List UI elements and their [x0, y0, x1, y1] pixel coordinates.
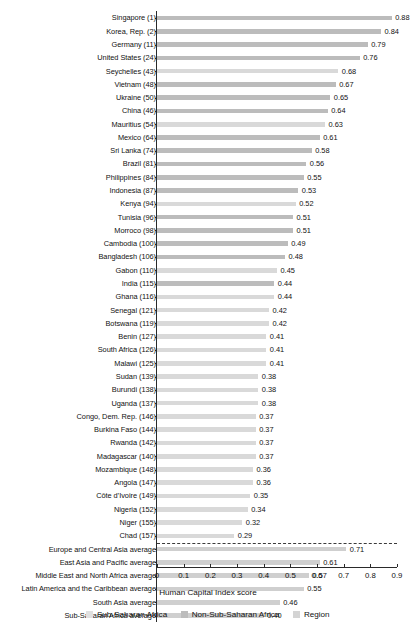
y-axis-tick-label: Indonesia (87) — [4, 184, 156, 197]
y-axis-tick-label: South Africa (126) — [4, 343, 156, 356]
x-axis-tick-label: 0.9 — [385, 571, 409, 580]
y-axis-tick-label: United States (24) — [4, 51, 156, 64]
bar-value-label: 0.46 — [283, 596, 297, 609]
bar-value-label: 0.44 — [278, 290, 292, 303]
bar — [157, 56, 360, 61]
y-axis-tick-label: Madagascar (140) — [4, 450, 156, 463]
x-axis-tick-label: 0.2 — [198, 571, 222, 580]
chart-row: Bangladesh (106)0.48 — [0, 250, 416, 263]
bar — [157, 454, 256, 459]
chart-row: Brazil (81)0.56 — [0, 157, 416, 170]
bar-value-label: 0.42 — [273, 304, 287, 317]
human-capital-index-chart: Singapore (1)0.88Korea, Rep. (2)0.84Germ… — [0, 0, 416, 634]
y-axis-tick-label: Ukraine (50) — [4, 91, 156, 104]
bar-value-label: 0.37 — [259, 423, 273, 436]
bar — [157, 427, 256, 432]
bar-value-label: 0.88 — [395, 11, 409, 24]
chart-row: United States (24)0.76 — [0, 51, 416, 64]
bar — [157, 29, 381, 34]
chart-row: Malawi (125)0.41 — [0, 357, 416, 370]
y-axis-tick-label: Burkina Faso (144) — [4, 423, 156, 436]
bar-value-label: 0.65 — [334, 91, 348, 104]
bar-value-label: 0.51 — [297, 211, 311, 224]
y-axis-tick-label: Botswana (119) — [4, 317, 156, 330]
bar-value-label: 0.63 — [329, 118, 343, 131]
x-axis-tick-mark — [264, 564, 265, 567]
x-axis-tick-mark — [237, 564, 238, 567]
bar-value-label: 0.58 — [315, 144, 329, 157]
y-axis-tick-label: Ghana (116) — [4, 290, 156, 303]
legend-color-swatch — [181, 611, 188, 618]
chart-row: Indonesia (87)0.53 — [0, 184, 416, 197]
bar — [157, 348, 266, 353]
bar — [157, 228, 293, 233]
bar-value-label: 0.61 — [323, 556, 337, 569]
x-axis-tick-mark — [184, 564, 185, 567]
legend-item[interactable]: Region — [293, 610, 329, 619]
chart-row: Mozambique (148)0.36 — [0, 463, 416, 476]
chart-row: Vietnam (48)0.67 — [0, 78, 416, 91]
chart-row: Congo, Dem. Rep. (146)0.37 — [0, 410, 416, 423]
chart-row: Sri Lanka (74)0.58 — [0, 144, 416, 157]
bar — [157, 308, 269, 313]
x-axis-tick-label: 0.8 — [358, 571, 382, 580]
bar-value-label: 0.34 — [251, 503, 265, 516]
chart-row: Germany (11)0.79 — [0, 38, 416, 51]
y-axis-tick-label: Vietnam (48) — [4, 78, 156, 91]
chart-row: Sudan (139)0.38 — [0, 370, 416, 383]
bar-value-label: 0.29 — [238, 529, 252, 542]
bar — [157, 374, 258, 379]
bar-value-label: 0.38 — [262, 397, 276, 410]
chart-row: Seychelles (43)0.68 — [0, 65, 416, 78]
y-axis-tick-label: Europe and Central Asia average — [4, 543, 156, 556]
chart-row: Korea, Rep. (2)0.84 — [0, 25, 416, 38]
bar-value-label: 0.79 — [371, 38, 385, 51]
chart-row: Angola (147)0.36 — [0, 476, 416, 489]
chart-row: Mexico (64)0.61 — [0, 131, 416, 144]
bar — [157, 188, 298, 193]
chart-row: Botswana (119)0.42 — [0, 317, 416, 330]
bar-value-label: 0.51 — [297, 224, 311, 237]
bar — [157, 507, 248, 512]
legend-item-label: Region — [304, 610, 330, 619]
bar-value-label: 0.38 — [262, 383, 276, 396]
y-axis-tick-label: Niger (155) — [4, 516, 156, 529]
bar — [157, 162, 306, 167]
bar-value-label: 0.67 — [339, 78, 353, 91]
plot-area: Singapore (1)0.88Korea, Rep. (2)0.84Germ… — [0, 0, 416, 634]
bar — [157, 255, 285, 260]
x-axis-tick-mark — [397, 564, 398, 567]
chart-row: Niger (155)0.32 — [0, 516, 416, 529]
bar-value-label: 0.37 — [259, 450, 273, 463]
y-axis-tick-label: Rwanda (142) — [4, 436, 156, 449]
y-axis-tick-label: Gabon (110) — [4, 264, 156, 277]
bar — [157, 388, 258, 393]
chart-legend: Sub-Saharan AfricaNon-Sub-Saharan Africa… — [0, 610, 416, 619]
bar — [157, 401, 258, 406]
bar-value-label: 0.55 — [307, 171, 321, 184]
y-axis-tick-label: Seychelles (43) — [4, 65, 156, 78]
bar-value-label: 0.61 — [323, 131, 337, 144]
y-axis-tick-label: Korea, Rep. (2) — [4, 25, 156, 38]
y-axis-tick-label: Uganda (137) — [4, 397, 156, 410]
y-axis-tick-label: South Asia average — [4, 596, 156, 609]
x-axis-tick-label: 0.1 — [172, 571, 196, 580]
legend-item[interactable]: Sub-Saharan Africa — [86, 610, 167, 619]
bar — [157, 600, 280, 605]
bar-value-label: 0.53 — [302, 184, 316, 197]
chart-row: South Asia average0.46 — [0, 596, 416, 609]
chart-row: Burundi (138)0.38 — [0, 383, 416, 396]
y-axis-tick-label: Benin (127) — [4, 330, 156, 343]
bar-value-label: 0.52 — [299, 197, 313, 210]
chart-row: Mauritius (54)0.63 — [0, 118, 416, 131]
bar-value-label: 0.41 — [270, 357, 284, 370]
bar — [157, 241, 288, 246]
legend-color-swatch — [293, 611, 300, 618]
y-axis-tick-label: Mexico (64) — [4, 131, 156, 144]
bar — [157, 560, 320, 565]
bar-value-label: 0.38 — [262, 370, 276, 383]
x-axis-title: Human Capital Index score — [0, 588, 416, 597]
legend-item[interactable]: Non-Sub-Saharan Africa — [181, 610, 279, 619]
y-axis-tick-label: Côte d’Ivoire (149) — [4, 489, 156, 502]
bar — [157, 281, 274, 286]
